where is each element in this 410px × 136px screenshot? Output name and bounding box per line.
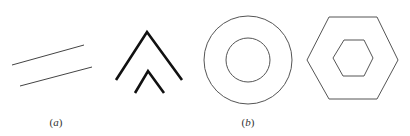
circle-outer xyxy=(204,16,292,104)
parallel-line-upper xyxy=(12,45,84,65)
concentric-circles xyxy=(204,16,292,104)
concentric-hexagons xyxy=(307,17,398,99)
parallel-lines xyxy=(12,45,92,86)
hexagon-outer xyxy=(307,17,398,99)
chevron-inner xyxy=(135,71,164,93)
label-paren-close: ) xyxy=(59,116,63,128)
panel-label-b: (b) xyxy=(242,116,255,128)
label-paren-close: ) xyxy=(251,116,255,128)
panel-label-a: (a) xyxy=(50,116,63,128)
parallel-line-lower xyxy=(20,67,92,86)
hexagon-inner xyxy=(333,40,373,76)
circle-inner xyxy=(226,38,270,82)
nested-chevrons xyxy=(116,32,182,93)
